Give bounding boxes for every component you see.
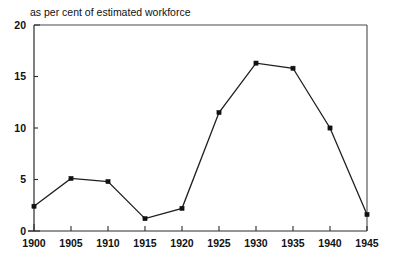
data-point-marker: [106, 179, 110, 183]
chart-container: as per cent of estimated workforce 19001…: [0, 0, 393, 267]
data-point-marker: [69, 176, 73, 180]
chart-background: [0, 0, 393, 267]
y-tick-label: 5: [20, 173, 26, 185]
data-point-marker: [365, 212, 369, 216]
data-point-marker: [143, 217, 147, 221]
data-point-marker: [32, 204, 36, 208]
chart-title: as per cent of estimated workforce: [30, 6, 191, 18]
x-tick-label: 1905: [59, 237, 83, 249]
x-tick-label: 1940: [318, 237, 342, 249]
y-tick-label: 0: [20, 225, 26, 237]
data-point-marker: [291, 66, 295, 70]
y-tick-label: 15: [14, 70, 26, 82]
line-chart: as per cent of estimated workforce 19001…: [0, 0, 393, 267]
x-tick-label: 1910: [96, 237, 120, 249]
data-point-marker: [254, 61, 258, 65]
y-tick-label: 10: [14, 122, 26, 134]
x-tick-label: 1900: [22, 237, 46, 249]
x-tick-label: 1935: [281, 237, 305, 249]
y-tick-label: 20: [14, 19, 26, 31]
x-tick-label: 1945: [355, 237, 379, 249]
x-tick-label: 1925: [207, 237, 231, 249]
x-tick-label: 1930: [244, 237, 268, 249]
data-point-marker: [328, 126, 332, 130]
data-point-marker: [180, 206, 184, 210]
x-tick-label: 1920: [170, 237, 194, 249]
x-tick-label: 1915: [133, 237, 157, 249]
data-point-marker: [217, 110, 221, 114]
